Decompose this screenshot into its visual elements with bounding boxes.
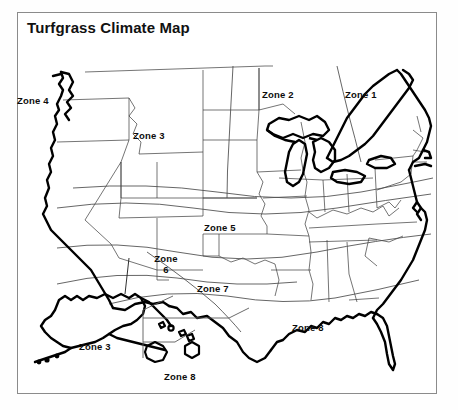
zone-label-zone-4-pacific-northwest: Zone 4 — [17, 95, 49, 106]
alaska-inset-outline — [35, 294, 171, 363]
zone-label-zone-8-hawaii: Zone 8 — [164, 371, 196, 382]
zone-6-number: 6 — [163, 264, 168, 275]
state-boundaries-group — [57, 66, 427, 302]
zone-label-zone-6-southwest: Zone6 — [146, 253, 186, 275]
zone-label-zone-1-northeast: Zone 1 — [345, 89, 377, 100]
zone-label-zone-3-northern-rockies: Zone 3 — [133, 130, 165, 141]
zone-label-zone-8-southeast: Zone 8 — [292, 322, 324, 333]
national-coastline-outline — [43, 70, 431, 370]
zone-label-zone-2-upper-midwest: Zone 2 — [262, 89, 294, 100]
zone-label-zone-5-central-plains: Zone 5 — [204, 222, 236, 233]
zone-label-zone-3-alaska: Zone 3 — [79, 341, 111, 352]
zone-label-zone-7-south-central: Zone 7 — [197, 283, 229, 294]
turfgrass-climate-map-graphic — [17, 12, 437, 394]
zone-6-word: Zone — [154, 253, 178, 264]
figure-container: Turfgrass Climate Map — [0, 0, 458, 410]
alaska-callout-line — [125, 258, 129, 294]
